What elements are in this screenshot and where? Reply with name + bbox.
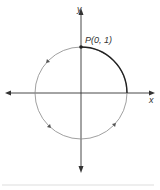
x-axis <box>5 91 155 96</box>
x-axis-label: x <box>148 95 154 105</box>
y-axis <box>79 8 84 173</box>
point-p-label: P(0, 1) <box>85 35 112 45</box>
x-axis-left-arrow-icon <box>5 91 11 96</box>
y-axis-down-arrow-icon <box>79 166 84 173</box>
point-p-marker <box>79 45 83 49</box>
unit-circle-diagram: y x P(0, 1) <box>0 0 160 190</box>
y-axis-label: y <box>76 4 82 14</box>
highlighted-arc <box>81 47 127 93</box>
